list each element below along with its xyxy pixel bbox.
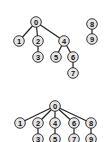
tree-node-7: 7 bbox=[69, 134, 80, 142]
tree-node-0: 0 bbox=[50, 101, 61, 112]
node-label: 5 bbox=[53, 135, 57, 142]
tree-node-4: 4 bbox=[50, 118, 61, 129]
bottom-tree: 0123456789 bbox=[15, 101, 97, 142]
node-label: 7 bbox=[71, 69, 75, 78]
node-label: 6 bbox=[71, 53, 75, 62]
tree-diagram: 0123456789 0123456789 bbox=[0, 0, 107, 142]
tree-node-3: 3 bbox=[33, 134, 44, 142]
top-forest: 0123456789 bbox=[14, 17, 98, 79]
tree-node-1: 1 bbox=[15, 118, 26, 129]
tree-node-4: 4 bbox=[59, 36, 70, 47]
tree-node-8: 8 bbox=[86, 118, 97, 129]
node-label: 7 bbox=[72, 135, 76, 142]
tree-node-7: 7 bbox=[68, 68, 79, 79]
tree-node-6: 6 bbox=[69, 118, 80, 129]
node-label: 9 bbox=[90, 35, 94, 44]
node-label: 6 bbox=[72, 119, 76, 128]
tree-node-0: 0 bbox=[31, 17, 42, 28]
node-label: 1 bbox=[17, 37, 21, 46]
node-label: 0 bbox=[53, 102, 57, 111]
node-label: 0 bbox=[34, 18, 38, 27]
node-label: 8 bbox=[90, 20, 94, 29]
tree-node-6: 6 bbox=[68, 52, 79, 63]
node-label: 3 bbox=[36, 135, 40, 142]
tree-node-2: 2 bbox=[33, 36, 44, 47]
tree-node-5: 5 bbox=[51, 52, 62, 63]
node-label: 2 bbox=[36, 37, 40, 46]
node-label: 8 bbox=[89, 119, 93, 128]
node-label: 2 bbox=[36, 119, 40, 128]
node-label: 9 bbox=[89, 135, 93, 142]
tree-node-3: 3 bbox=[33, 52, 44, 63]
node-label: 5 bbox=[54, 53, 58, 62]
tree-node-9: 9 bbox=[86, 134, 97, 142]
tree-node-2: 2 bbox=[33, 118, 44, 129]
node-label: 3 bbox=[36, 53, 40, 62]
node-label: 1 bbox=[18, 119, 22, 128]
tree-node-8: 8 bbox=[87, 19, 98, 30]
tree-node-1: 1 bbox=[14, 36, 25, 47]
tree-node-9: 9 bbox=[87, 34, 98, 45]
tree-node-5: 5 bbox=[50, 134, 61, 142]
